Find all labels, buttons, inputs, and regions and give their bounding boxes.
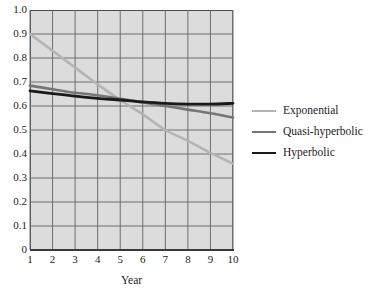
x-axis-tick-label: 4 — [87, 254, 109, 265]
legend-item-exponential: Exponential — [252, 100, 383, 121]
legend-item-quasi-hyperbolic: Quasi-hyperbolic — [252, 121, 383, 142]
legend-label-hyperbolic: Hyperbolic — [283, 147, 335, 159]
x-axis-tick-label: 2 — [42, 254, 64, 265]
x-axis-tick-label: 7 — [154, 254, 176, 265]
x-axis-tick-label: 5 — [109, 254, 131, 265]
chart-figure: 1.00.90.80.70.60.50.40.30.20.10 12345678… — [0, 0, 383, 296]
legend-label-quasi-hyperbolic: Quasi-hyperbolic — [283, 126, 363, 138]
x-axis-title: Year — [30, 274, 233, 286]
x-axis-tick-label: 10 — [222, 254, 244, 265]
y-axis-tick-label: 0.4 — [1, 148, 27, 159]
x-axis-tick-label: 6 — [132, 254, 154, 265]
x-axis-tick-label: 1 — [19, 254, 41, 265]
x-axis-tick-label: 9 — [199, 254, 221, 265]
x-axis-line — [30, 249, 234, 251]
y-axis-tick-label: 0.9 — [1, 28, 27, 39]
chart-legend: Exponential Quasi-hyperbolic Hyperbolic — [252, 100, 383, 163]
y-axis-tick-label: 0.6 — [1, 100, 27, 111]
y-axis-tick-label: 0.5 — [1, 124, 27, 135]
y-axis-tick-label: 0.8 — [1, 52, 27, 63]
y-axis-tick-labels: 1.00.90.80.70.60.50.40.30.20.10 — [0, 0, 27, 296]
legend-swatch-quasi-hyperbolic — [252, 131, 276, 133]
series-lines — [30, 10, 233, 250]
y-axis-tick-label: 0.3 — [1, 172, 27, 183]
legend-label-exponential: Exponential — [283, 105, 339, 117]
x-axis-tick-label: 3 — [64, 254, 86, 265]
y-axis-tick-label: 0.2 — [1, 196, 27, 207]
legend-swatch-exponential — [252, 110, 276, 112]
y-axis-tick-label: 1.0 — [1, 4, 27, 15]
y-axis-tick-label: 0.7 — [1, 76, 27, 87]
legend-swatch-hyperbolic — [252, 152, 276, 154]
legend-item-hyperbolic: Hyperbolic — [252, 142, 383, 163]
plot-area — [30, 10, 233, 250]
y-axis-tick-label: 0.1 — [1, 220, 27, 231]
x-axis-tick-label: 8 — [177, 254, 199, 265]
